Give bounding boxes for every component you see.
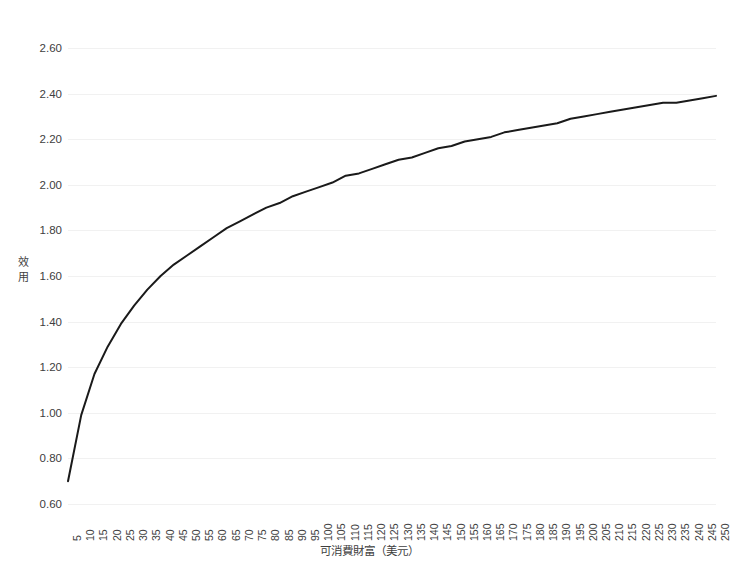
x-tick-label: 50 [182, 509, 193, 543]
y-tick-label: 0.60 [2, 498, 62, 510]
y-tick-label: 1.40 [2, 316, 62, 328]
y-tick-label: 1.60 [2, 270, 62, 282]
y-tick-label: 2.00 [2, 179, 62, 191]
plot-area [68, 48, 716, 504]
x-tick-label: 5 [63, 509, 74, 543]
x-tick-label: 175 [513, 509, 524, 543]
x-tick-label: 245 [698, 509, 709, 543]
x-tick-label: 220 [632, 509, 643, 543]
x-tick-label: 235 [671, 509, 682, 543]
x-tick-label: 225 [645, 509, 656, 543]
x-tick-label: 250 [711, 509, 722, 543]
y-tick-label: 2.20 [2, 133, 62, 145]
x-tick-label: 20 [103, 509, 114, 543]
x-tick-label: 55 [195, 509, 206, 543]
y-tick-label: 2.40 [2, 88, 62, 100]
x-tick-label: 110 [341, 509, 352, 543]
x-tick-label: 190 [552, 509, 563, 543]
x-tick-label: 155 [460, 509, 471, 543]
x-tick-label: 75 [248, 509, 259, 543]
x-tick-label: 180 [526, 509, 537, 543]
x-tick-label: 60 [208, 509, 219, 543]
x-tick-label: 45 [169, 509, 180, 543]
y-tick-label: 1.80 [2, 224, 62, 236]
x-tick-label: 205 [592, 509, 603, 543]
x-tick-label: 105 [327, 509, 338, 543]
x-tick-label: 115 [354, 509, 365, 543]
x-tick-label: 215 [618, 509, 629, 543]
utility-curve-line [60, 40, 724, 512]
y-tick-label: 1.20 [2, 361, 62, 373]
x-tick-label: 125 [380, 509, 391, 543]
x-axis-title: 可消費財富（美元） [0, 542, 739, 558]
x-tick-label: 25 [116, 509, 127, 543]
x-tick-label: 15 [89, 509, 100, 543]
x-tick-label: 85 [275, 509, 286, 543]
x-tick-label: 230 [658, 509, 669, 543]
x-tick-label: 35 [142, 509, 153, 543]
x-tick-label: 140 [420, 509, 431, 543]
x-tick-label: 170 [499, 509, 510, 543]
x-tick-label: 65 [222, 509, 233, 543]
x-tick-label: 10 [76, 509, 87, 543]
x-tick-label: 40 [156, 509, 167, 543]
x-tick-label: 95 [301, 509, 312, 543]
x-tick-label: 80 [261, 509, 272, 543]
y-tick-label: 1.00 [2, 407, 62, 419]
x-tick-label: 240 [685, 509, 696, 543]
x-tick-label: 135 [407, 509, 418, 543]
utility-curve-chart: 效用 0.600.801.001.201.401.601.802.002.202… [0, 0, 739, 561]
x-tick-label: 160 [473, 509, 484, 543]
x-tick-label: 90 [288, 509, 299, 543]
x-tick-label: 185 [539, 509, 550, 543]
x-tick-label: 120 [367, 509, 378, 543]
y-tick-label: 0.80 [2, 452, 62, 464]
x-tick-label: 145 [433, 509, 444, 543]
x-tick-label: 30 [129, 509, 140, 543]
y-tick-label: 2.60 [2, 42, 62, 54]
x-tick-label: 195 [566, 509, 577, 543]
x-tick-label: 150 [447, 509, 458, 543]
x-tick-label: 200 [579, 509, 590, 543]
x-tick-label: 165 [486, 509, 497, 543]
x-tick-label: 130 [394, 509, 405, 543]
x-tick-label: 100 [314, 509, 325, 543]
x-tick-label: 70 [235, 509, 246, 543]
curve-path [68, 96, 716, 481]
x-tick-label: 210 [605, 509, 616, 543]
